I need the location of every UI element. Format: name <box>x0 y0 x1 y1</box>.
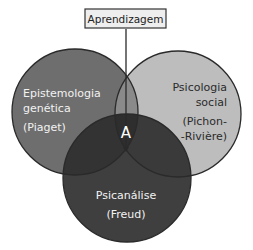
right-label-line-1: Psicologia <box>172 81 227 94</box>
right-label-line-4: -Rivière) <box>181 130 227 143</box>
right-label-line-2: social <box>196 96 227 109</box>
right-label-line-3: (Pichon- <box>183 115 227 128</box>
bottom-label-line-2: (Freud) <box>106 208 145 221</box>
intersection-label: A <box>121 124 132 142</box>
left-label-line-1: Epistemologia <box>23 87 101 100</box>
left-label-line-2: genética <box>23 102 71 115</box>
bottom-label-line-1: Psicanálise <box>96 189 157 202</box>
top-label: Aprendizagem <box>88 13 164 25</box>
venn-diagram: Aprendizagem Epistemologia genética (Pia… <box>0 0 253 250</box>
left-label-line-3: (Piaget) <box>23 121 66 134</box>
